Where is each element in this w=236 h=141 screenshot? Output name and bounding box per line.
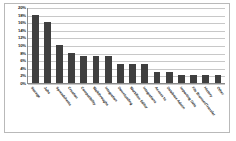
y-axis-tick-label: 14% [18, 29, 26, 34]
bar-slot [163, 8, 175, 83]
chart-plot-wrapper: 20%18%16%14%12%10%8%6%4%2%0% StorageJobs… [5, 4, 229, 132]
bar[interactable] [215, 75, 222, 83]
bar[interactable] [68, 53, 75, 83]
bar[interactable] [56, 45, 63, 83]
x-axis-slot: Compatibility [77, 85, 89, 133]
bar-slot [139, 8, 151, 83]
x-axis-slot: Other [213, 85, 225, 133]
bar[interactable] [129, 64, 136, 83]
x-axis-slot: File Browser/Transfer [188, 85, 200, 133]
x-axis-slot: Workflow Editor [126, 85, 138, 133]
bar-slot [114, 8, 126, 83]
bar[interactable] [190, 75, 197, 83]
x-axis-slot: Storage [27, 85, 39, 133]
x-axis-tick-label: Other [216, 86, 225, 96]
x-axis-slot: Spreadsheets [52, 85, 64, 133]
bar[interactable] [166, 72, 173, 83]
bar-slot [127, 8, 139, 83]
bar-slot [41, 8, 53, 83]
bar-slot [53, 8, 65, 83]
bar[interactable] [202, 75, 209, 83]
bar[interactable] [105, 56, 112, 83]
bar-slot [66, 8, 78, 83]
y-axis-tick-label: 20% [18, 6, 26, 11]
bar-slot [187, 8, 199, 83]
bar-slot [102, 8, 114, 83]
x-axis-slot: Downloading [114, 85, 126, 133]
bar[interactable] [44, 22, 51, 83]
bar-slot [212, 8, 224, 83]
bar[interactable] [93, 56, 100, 83]
x-axis-slot: Integration [101, 85, 113, 133]
y-axis-tick-label: 10% [18, 44, 26, 49]
x-axis-tick-label: Jobs [42, 86, 50, 95]
y-axis-tick-label: 18% [18, 13, 26, 18]
y-axis-tick-label: 0% [20, 82, 26, 87]
bar[interactable] [117, 64, 124, 83]
bar[interactable] [141, 64, 148, 83]
x-axis-slot: History [200, 85, 212, 133]
bar[interactable] [154, 72, 161, 83]
bar-series [28, 8, 225, 83]
bar-slot [175, 8, 187, 83]
x-axis-slot: Integrations [138, 85, 150, 133]
y-axis-tick-label: 6% [20, 59, 26, 64]
y-axis-tick-label: 12% [18, 36, 26, 41]
y-axis-tick-label: 4% [20, 67, 26, 72]
x-axis-slot: Creation [64, 85, 76, 133]
x-axis-slot: Access to [151, 85, 163, 133]
y-axis-tick-label: 2% [20, 74, 26, 79]
x-axis: StorageJobsSpreadsheetsCreationCompatibi… [27, 85, 225, 133]
y-axis-tick-label: 8% [20, 51, 26, 56]
bar-slot [90, 8, 102, 83]
x-axis-slot: Jobs [39, 85, 51, 133]
x-axis-slot: Walkthroughs [89, 85, 101, 133]
bar[interactable] [32, 15, 39, 83]
y-axis: 20%18%16%14%12%10%8%6%4%2%0% [7, 8, 26, 84]
y-axis-tick-label: 16% [18, 21, 26, 26]
bar-slot [151, 8, 163, 83]
bar-slot [200, 8, 212, 83]
bar[interactable] [178, 75, 185, 83]
plot-area [27, 8, 225, 84]
chart-frame: 20%18%16%14%12%10%8%6%4%2%0% StorageJobs… [4, 3, 230, 133]
bar[interactable] [80, 56, 87, 83]
x-axis-slot: Database Admin [163, 85, 175, 133]
bar-slot [29, 8, 41, 83]
x-axis-slot: Importing Data [176, 85, 188, 133]
bar-slot [78, 8, 90, 83]
